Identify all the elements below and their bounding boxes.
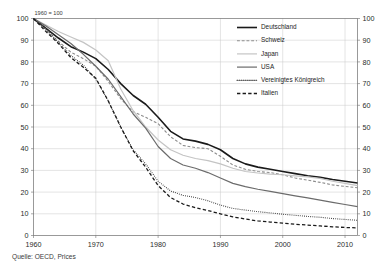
legend: DeutschlandSchweizJapanUSAVereinigtes Kö… xyxy=(237,23,325,96)
y-axis-right-tick-label: 50 xyxy=(363,123,371,132)
source-note: Quelle: OECD, Prices xyxy=(12,253,76,261)
legend-label-italien: Italien xyxy=(261,89,278,96)
x-axis-labels: 196019701980199020002010 xyxy=(26,240,354,249)
y-axis-right-tick-label: 70 xyxy=(363,79,371,88)
data-series-group xyxy=(34,19,358,228)
y-axis-right-tick-label: 10 xyxy=(363,209,371,218)
series-line-vereinigtes-k-nigreich xyxy=(34,19,358,221)
series-line-schweiz xyxy=(34,19,358,188)
legend-label-schweiz: Schweiz xyxy=(261,36,285,43)
x-axis-tick-label: 2000 xyxy=(275,240,291,249)
y-axis-tick-label: 10 xyxy=(21,209,29,218)
y-axis-tick-label: 20 xyxy=(21,188,29,197)
y-axis-tick-label: 70 xyxy=(21,79,29,88)
y-axis-right-tick-label: 60 xyxy=(363,101,371,110)
x-axis-tick-label: 1960 xyxy=(26,240,42,249)
x-axis-tick-label: 1990 xyxy=(212,240,228,249)
price-index-line-chart: 0102030405060708090100 01020304050607080… xyxy=(0,0,389,262)
y-axis-right-tick-label: 100 xyxy=(363,14,375,23)
x-axis-tick-label: 2010 xyxy=(337,240,353,249)
y-axis-tick-label: 90 xyxy=(21,36,29,45)
chart-svg: 0102030405060708090100 01020304050607080… xyxy=(0,0,389,262)
y-axis-tick-label: 40 xyxy=(21,144,29,153)
y-axis-tick-label: 80 xyxy=(21,58,29,67)
y-axis-right-labels: 0102030405060708090100 xyxy=(363,14,375,240)
legend-label-japan: Japan xyxy=(261,50,279,58)
y-axis-right-tick-label: 30 xyxy=(363,166,371,175)
y-axis-right-tick-label: 20 xyxy=(363,188,371,197)
y-axis-tick-label: 100 xyxy=(17,14,29,23)
y-axis-right-tick-label: 0 xyxy=(363,231,367,240)
x-axis-tick-label: 1970 xyxy=(88,240,104,249)
y-axis-right-tick-label: 80 xyxy=(363,58,371,67)
legend-label-usa: USA xyxy=(261,63,275,70)
y-axis-tick-label: 30 xyxy=(21,166,29,175)
y-axis-tick-label: 60 xyxy=(21,101,29,110)
legend-label-vereinigtes-k-nigreich: Vereinigtes Königreich xyxy=(261,76,325,84)
y-axis-left-labels: 0102030405060708090100 xyxy=(17,14,29,240)
y-axis-tick-label: 50 xyxy=(21,123,29,132)
legend-label-deutschland: Deutschland xyxy=(261,23,297,30)
series-line-italien xyxy=(34,19,358,228)
series-line-japan xyxy=(34,19,358,186)
index-base-annotation: 1960 = 100 xyxy=(35,10,63,16)
series-line-usa xyxy=(34,19,358,207)
y-axis-right-tick-label: 40 xyxy=(363,144,371,153)
x-axis-tick-label: 1980 xyxy=(150,240,166,249)
y-axis-right-tick-label: 90 xyxy=(363,36,371,45)
